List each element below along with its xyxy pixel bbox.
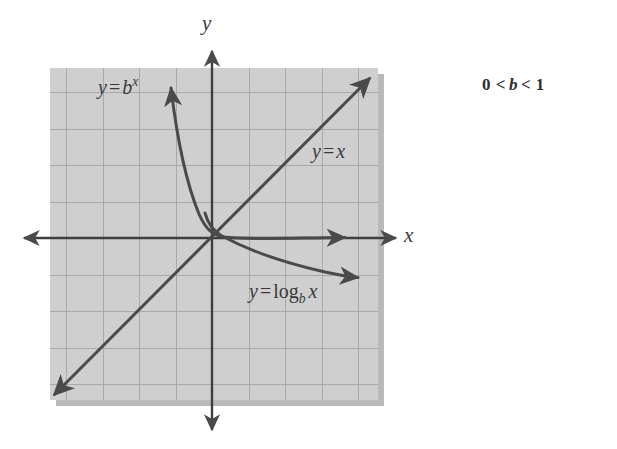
log-label-argument: x [306, 280, 318, 302]
exponential-label-operator: = [107, 76, 122, 98]
identity-line-label: y=x [312, 141, 345, 161]
condition-upper: < 1 [521, 75, 545, 94]
logarithmic-curve-label: y=logbx [249, 281, 317, 301]
figure-canvas [0, 0, 617, 449]
condition-variable: b [506, 75, 521, 94]
base-condition-note: 0 <b< 1 [482, 75, 545, 95]
exponential-label-exponent: x [132, 74, 138, 89]
condition-lower: 0 < [482, 75, 506, 94]
exponential-label-lhs: y [98, 76, 107, 98]
math-figure: y=bx y=x y=logbx y x 0 <b< 1 [0, 0, 617, 449]
identity-label-rhs: x [336, 140, 345, 162]
y-axis-label: y [202, 13, 211, 34]
log-label-lhs: y [249, 280, 258, 302]
log-label-subscript: b [299, 291, 306, 306]
identity-label-lhs: y [312, 140, 321, 162]
log-label-function: log [273, 280, 299, 302]
exponential-label-base: b [122, 76, 132, 98]
log-label-operator: = [258, 280, 273, 302]
exponential-curve-label: y=bx [98, 77, 138, 97]
x-axis-label: x [404, 225, 413, 246]
identity-label-operator: = [321, 140, 336, 162]
